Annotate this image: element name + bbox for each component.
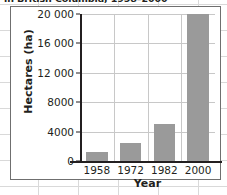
bar-1972 xyxy=(120,143,142,161)
y-axis-tick-labels: 04000800012 00016 00020 000 xyxy=(27,7,77,181)
y-tick-label: 4000 xyxy=(47,126,74,138)
bar-1958 xyxy=(86,152,108,161)
x-tick-label: 1958 xyxy=(80,164,114,176)
y-tick-label: 12 000 xyxy=(37,67,74,79)
x-tick-label: 1972 xyxy=(114,164,148,176)
bar-slot xyxy=(181,14,215,161)
x-tick-label: 2000 xyxy=(181,164,215,176)
bar-slot xyxy=(80,14,114,161)
bar-2000 xyxy=(187,14,209,161)
x-tick-label: 1982 xyxy=(148,164,182,176)
x-axis-tick-labels: 1958197219822000 xyxy=(80,164,215,178)
y-tick-label: 20 000 xyxy=(37,8,74,20)
x-axis-title: Year xyxy=(80,177,215,190)
x-axis-line xyxy=(70,161,222,163)
bar-1982 xyxy=(154,124,176,161)
bar-series xyxy=(80,14,215,161)
bar-slot xyxy=(148,14,182,161)
y-tick-label: 16 000 xyxy=(37,37,74,49)
plot-area xyxy=(80,14,215,161)
y-tick-label: 8000 xyxy=(47,96,74,108)
chart-title: in British Columbia, 1958–2000 xyxy=(4,0,227,4)
chart-figure: Hectares (ha) 04000800012 00016 00020 00… xyxy=(10,6,221,180)
y-axis-line xyxy=(80,14,82,162)
bar-slot xyxy=(114,14,148,161)
